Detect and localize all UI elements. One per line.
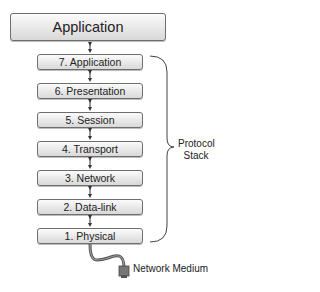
bracket-icon [150, 56, 174, 242]
protocol-stack-label-line2: Stack [178, 150, 214, 162]
network-medium-label: Network Medium [133, 263, 208, 274]
protocol-stack-label: Protocol Stack [178, 138, 214, 162]
protocol-stack-label-line1: Protocol [178, 138, 214, 150]
network-plug-icon [119, 266, 129, 278]
